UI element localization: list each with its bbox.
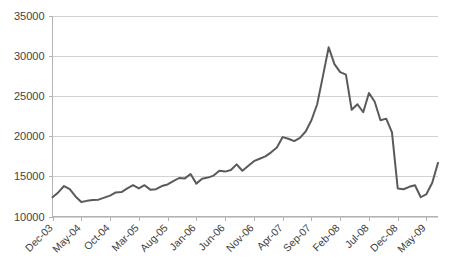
x-tick-label: Oct-04 bbox=[81, 221, 112, 252]
y-tick-label: 30000 bbox=[14, 50, 45, 62]
x-tick-labels-group: Dec-03May-04Oct-04Mar-05Aug-05Jan-06Jun-… bbox=[22, 221, 428, 254]
y-tick-labels-group: 100001500020000250003000035000 bbox=[14, 10, 53, 223]
y-tick-label: 10000 bbox=[14, 211, 45, 223]
y-tick-label: 20000 bbox=[14, 130, 45, 142]
x-tick-label: Apr-07 bbox=[254, 221, 285, 252]
x-tick-label: Dec-03 bbox=[22, 221, 55, 254]
data-series-group bbox=[53, 47, 439, 202]
chart-canvas: 100001500020000250003000035000 Dec-03May… bbox=[0, 0, 449, 275]
x-tick-label: Jun-06 bbox=[196, 221, 227, 252]
y-tick-label: 35000 bbox=[14, 10, 45, 22]
x-tick-label: May-09 bbox=[395, 221, 428, 254]
x-tick-label: Mar-05 bbox=[109, 221, 141, 253]
x-tick-label: Sep-07 bbox=[280, 221, 313, 254]
line-chart: 100001500020000250003000035000 Dec-03May… bbox=[0, 0, 449, 275]
x-tick-label: Feb-08 bbox=[310, 221, 342, 253]
series-line-index bbox=[53, 47, 439, 202]
x-tick-label: Dec-08 bbox=[367, 221, 400, 254]
x-tick-label: Aug-05 bbox=[137, 221, 170, 254]
y-tick-label: 25000 bbox=[14, 90, 45, 102]
x-tick-label: Jan-06 bbox=[167, 221, 198, 252]
x-tick-label: May-04 bbox=[50, 221, 83, 254]
y-tick-label: 15000 bbox=[14, 170, 45, 182]
x-tick-label: Nov-06 bbox=[223, 221, 256, 254]
